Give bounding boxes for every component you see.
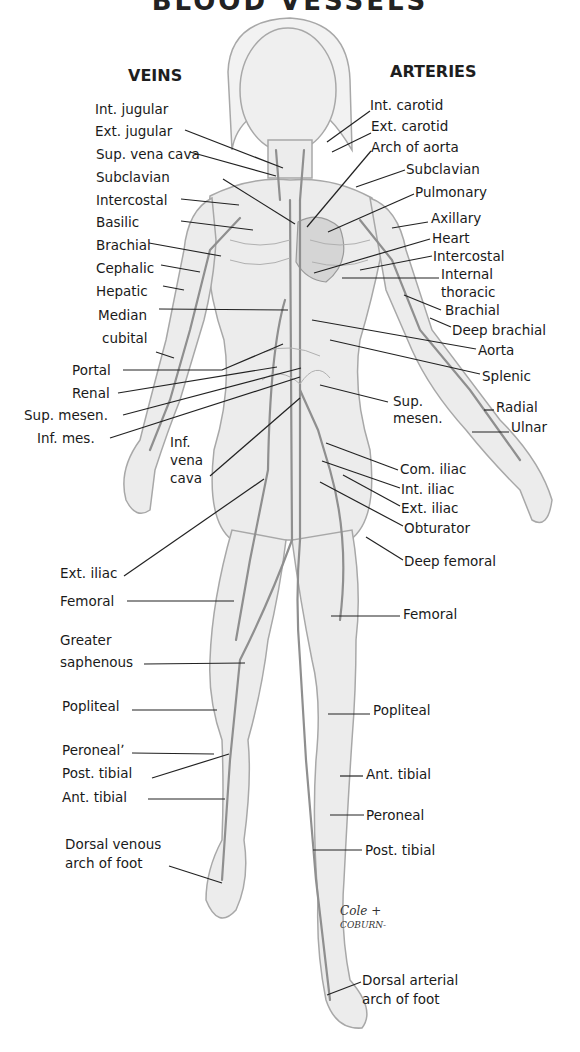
artery-label: Dorsal arterial bbox=[362, 972, 458, 988]
artery-label: arch of foot bbox=[362, 991, 440, 1007]
artery-label: Deep femoral bbox=[404, 553, 496, 569]
artery-label: Aorta bbox=[478, 342, 514, 358]
vein-label: Brachial bbox=[96, 237, 151, 253]
artery-label: Peroneal bbox=[366, 807, 424, 823]
artery-label: Axillary bbox=[431, 210, 481, 226]
artery-label: Popliteal bbox=[373, 702, 431, 718]
vein-label: Subclavian bbox=[96, 169, 170, 185]
artery-label: Subclavian bbox=[406, 161, 480, 177]
body-figure-illustration bbox=[0, 0, 580, 1052]
artery-label: Radial bbox=[496, 399, 538, 415]
vein-label: cava bbox=[170, 470, 202, 486]
vein-label: Inf. mes. bbox=[37, 430, 95, 446]
artist-signature: Cole + COBURN- bbox=[340, 905, 386, 931]
vein-label: vena bbox=[170, 452, 203, 468]
artery-label: Sup. bbox=[393, 393, 423, 409]
artery-label: thoracic bbox=[441, 284, 496, 300]
vein-label: Sup. mesen. bbox=[24, 407, 108, 423]
vein-label: Portal bbox=[72, 362, 111, 378]
artery-label: Brachial bbox=[445, 302, 500, 318]
artery-label: Splenic bbox=[482, 368, 531, 384]
artery-label: Ant. tibial bbox=[366, 766, 431, 782]
artery-label: Pulmonary bbox=[415, 184, 487, 200]
vein-label: Basilic bbox=[96, 214, 139, 230]
vein-label: Int. jugular bbox=[95, 101, 168, 117]
signature-line-1: Cole + bbox=[340, 905, 386, 917]
artery-label: Int. iliac bbox=[401, 481, 454, 497]
vein-label: Sup. vena cava bbox=[96, 146, 200, 162]
signature-line-2: COBURN- bbox=[340, 919, 386, 931]
vein-label: arch of foot bbox=[65, 855, 143, 871]
artery-label: Intercostal bbox=[433, 248, 504, 264]
artery-label: mesen. bbox=[393, 410, 443, 426]
vein-label: saphenous bbox=[60, 654, 133, 670]
vein-label: Ext. jugular bbox=[95, 123, 172, 139]
artery-label: Ext. carotid bbox=[371, 118, 448, 134]
artery-label: Post. tibial bbox=[365, 842, 435, 858]
vein-label: Hepatic bbox=[96, 283, 148, 299]
vein-label: Renal bbox=[72, 385, 110, 401]
artery-label: Int. carotid bbox=[370, 97, 443, 113]
vein-label: Ext. iliac bbox=[60, 565, 117, 581]
vein-label: Intercostal bbox=[96, 192, 167, 208]
artery-label: Arch of aorta bbox=[371, 139, 459, 155]
vein-label: Median bbox=[98, 307, 147, 323]
artery-label: Heart bbox=[432, 230, 470, 246]
vein-label: Peronealʼ bbox=[62, 742, 125, 758]
vein-label: Ant. tibial bbox=[62, 789, 127, 805]
artery-label: Deep brachial bbox=[452, 322, 546, 338]
vein-label: Inf. bbox=[170, 434, 191, 450]
vein-label: Dorsal venous bbox=[65, 836, 161, 852]
artery-label: Femoral bbox=[403, 606, 457, 622]
vein-label: Popliteal bbox=[62, 698, 120, 714]
vein-label: cubital bbox=[102, 330, 148, 346]
artery-label: Obturator bbox=[404, 520, 470, 536]
artery-label: Ext. iliac bbox=[401, 500, 458, 516]
artery-label: Com. iliac bbox=[400, 461, 466, 477]
vein-label: Post. tibial bbox=[62, 765, 132, 781]
vein-label: Cephalic bbox=[96, 260, 154, 276]
vein-label: Greater bbox=[60, 632, 111, 648]
artery-label: Internal bbox=[441, 266, 493, 282]
vein-label: Femoral bbox=[60, 593, 114, 609]
artery-label: Ulnar bbox=[511, 419, 547, 435]
